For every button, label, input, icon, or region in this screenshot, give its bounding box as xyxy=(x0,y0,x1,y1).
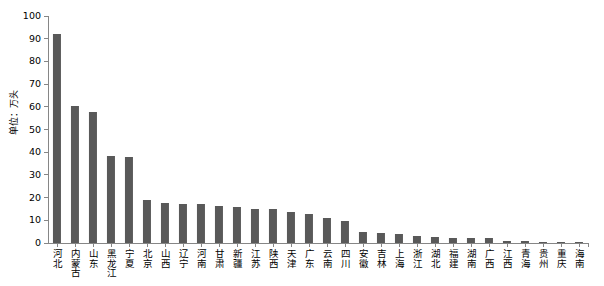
bar-series xyxy=(48,16,588,243)
x-tick-label: 江西 xyxy=(502,249,512,268)
bar xyxy=(107,156,115,243)
x-tick-mark xyxy=(111,243,112,247)
bar xyxy=(233,207,241,243)
x-tick-mark xyxy=(507,243,508,247)
x-tick-mark xyxy=(255,243,256,247)
x-tick-mark xyxy=(327,243,328,247)
bar xyxy=(197,204,205,243)
x-tick-label: 吉林 xyxy=(376,249,386,268)
x-tick-label: 贵州 xyxy=(538,249,548,268)
x-tick-mark xyxy=(291,243,292,247)
x-tick-label: 黑龙江 xyxy=(106,249,116,278)
y-tick-label: 100 xyxy=(1,9,41,22)
x-tick-label: 浙江 xyxy=(412,249,422,268)
bar-slot xyxy=(192,16,210,243)
y-tick-label: 70 xyxy=(1,77,41,90)
x-tick-label: 河北 xyxy=(52,249,62,268)
x-tick-label: 宁夏 xyxy=(124,249,134,268)
x-tick-mark xyxy=(381,243,382,247)
x-tick-mark xyxy=(363,243,364,247)
bar-slot xyxy=(174,16,192,243)
bar xyxy=(179,204,187,243)
x-tick-mark xyxy=(489,243,490,247)
y-tick-label: 50 xyxy=(1,123,41,136)
x-tick-mark xyxy=(273,243,274,247)
bar-slot xyxy=(102,16,120,243)
x-tick-label: 海南 xyxy=(574,249,584,268)
bar-slot xyxy=(372,16,390,243)
bar xyxy=(395,234,403,243)
bar-slot xyxy=(318,16,336,243)
x-tick-mark xyxy=(237,243,238,247)
y-tick-label: 90 xyxy=(1,32,41,45)
x-tick-mark xyxy=(579,243,580,247)
x-tick-label: 河南 xyxy=(196,249,206,268)
x-tick-label: 重庆 xyxy=(556,249,566,268)
y-tick-label: 0 xyxy=(1,236,41,249)
x-tick-mark xyxy=(219,243,220,247)
x-tick-label: 山西 xyxy=(160,249,170,268)
bar xyxy=(413,236,421,243)
bar xyxy=(341,221,349,243)
x-tick-label: 山东 xyxy=(88,249,98,268)
bar-slot xyxy=(552,16,570,243)
bar xyxy=(71,106,79,243)
bar-slot xyxy=(426,16,444,243)
bar-slot xyxy=(408,16,426,243)
x-tick-label: 天津 xyxy=(286,249,296,268)
bar-slot xyxy=(570,16,588,243)
bar-slot xyxy=(444,16,462,243)
bar xyxy=(53,34,61,243)
bar-slot xyxy=(480,16,498,243)
x-tick-mark xyxy=(345,243,346,247)
x-tick-label: 四川 xyxy=(340,249,350,268)
bar-slot xyxy=(66,16,84,243)
bar xyxy=(215,206,223,243)
bar-slot xyxy=(84,16,102,243)
bar xyxy=(269,209,277,243)
bar-slot xyxy=(516,16,534,243)
x-tick-mark-end xyxy=(588,243,589,247)
y-tick-label: 10 xyxy=(1,213,41,226)
bar-slot xyxy=(390,16,408,243)
x-tick-mark xyxy=(417,243,418,247)
x-tick-mark xyxy=(201,243,202,247)
x-tick-mark xyxy=(525,243,526,247)
x-tick-mark xyxy=(543,243,544,247)
x-tick-mark xyxy=(183,243,184,247)
x-tick-mark xyxy=(561,243,562,247)
x-tick-label: 内蒙古 xyxy=(70,249,80,278)
bar-slot xyxy=(228,16,246,243)
bar-chart: 单位：万头 1009080706050403020100 河北内蒙古山东黑龙江宁… xyxy=(0,0,604,286)
x-tick-mark xyxy=(75,243,76,247)
y-tick-label: 60 xyxy=(1,100,41,113)
x-axis-labels: 河北内蒙古山东黑龙江宁夏北京山西辽宁河南甘肃新疆江苏陕西天津广东云南四川安徽吉林… xyxy=(48,249,588,286)
bar-slot xyxy=(210,16,228,243)
x-tick-label: 辽宁 xyxy=(178,249,188,268)
y-tick-label: 20 xyxy=(1,191,41,204)
x-tick-mark xyxy=(309,243,310,247)
x-tick-label: 安徽 xyxy=(358,249,368,268)
bar xyxy=(287,212,295,243)
x-tick-label: 广东 xyxy=(304,249,314,268)
bar-slot xyxy=(156,16,174,243)
bar xyxy=(161,203,169,243)
x-tick-label: 青海 xyxy=(520,249,530,268)
bar-slot xyxy=(498,16,516,243)
x-tick-label: 陕西 xyxy=(268,249,278,268)
x-tick-label: 福建 xyxy=(448,249,458,268)
bar-slot xyxy=(462,16,480,243)
x-tick-mark xyxy=(453,243,454,247)
bar-slot xyxy=(246,16,264,243)
bar xyxy=(125,157,133,243)
x-tick-label: 广西 xyxy=(484,249,494,268)
y-tick-label: 30 xyxy=(1,168,41,181)
bar-slot xyxy=(120,16,138,243)
bar xyxy=(251,209,259,243)
y-tick-label: 40 xyxy=(1,145,41,158)
x-tick-mark xyxy=(57,243,58,247)
x-tick-label: 江苏 xyxy=(250,249,260,268)
x-tick-mark xyxy=(93,243,94,247)
x-tick-mark xyxy=(165,243,166,247)
bar-slot xyxy=(534,16,552,243)
